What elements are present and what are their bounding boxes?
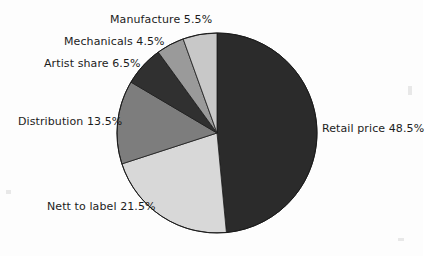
slice-label-retail-price: Retail price 48.5%	[322, 122, 424, 135]
slice-label-manufacture: Manufacture 5.5%	[110, 13, 212, 26]
slice-label-artist-share: Artist share 6.5%	[44, 57, 141, 70]
slice-label-distribution: Distribution 13.5%	[18, 115, 122, 128]
slice-label-nett-to-label: Nett to label 21.5%	[47, 200, 156, 213]
pie-slice-retail-price	[217, 33, 317, 233]
slice-label-mechanicals: Mechanicals 4.5%	[64, 35, 165, 48]
scan-artifact-speck	[408, 86, 412, 95]
scan-artifact-speck	[398, 238, 404, 241]
scan-artifact-speck	[6, 190, 11, 194]
